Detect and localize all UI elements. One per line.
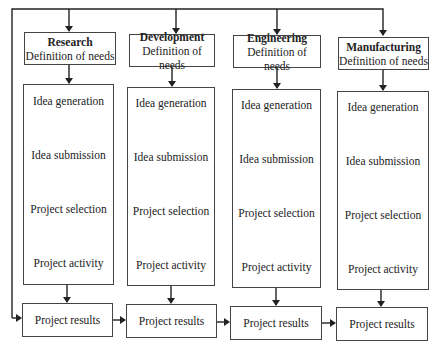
results-label: Project results <box>139 315 204 327</box>
header-subtitle: Definition of needs <box>234 45 320 73</box>
process-box-research: Idea generation Idea submission Project … <box>23 84 114 285</box>
process-box-development: Idea generation Idea submission Project … <box>127 87 215 286</box>
results-label: Project results <box>243 317 308 329</box>
results-label: Project results <box>349 318 414 330</box>
header-subtitle: Definition of needs <box>339 54 428 68</box>
step-idea-submission: Idea submission <box>338 155 428 167</box>
results-box-engineering: Project results <box>230 306 322 340</box>
step-idea-generation: Idea generation <box>233 99 320 111</box>
step-project-selection: Project selection <box>338 209 428 221</box>
step-idea-generation: Idea generation <box>128 97 214 109</box>
results-label: Project results <box>35 314 100 326</box>
header-title: Manufacturing <box>346 40 421 54</box>
step-project-activity: Project activity <box>128 259 214 271</box>
step-project-selection: Project selection <box>233 207 320 219</box>
header-title: Engineering <box>247 31 307 45</box>
results-box-research: Project results <box>22 303 113 337</box>
step-project-activity: Project activity <box>338 263 428 275</box>
step-project-selection: Project selection <box>24 203 113 215</box>
step-project-selection: Project selection <box>128 205 214 217</box>
header-title: Research <box>47 35 92 49</box>
header-subtitle: Definition of needs <box>26 49 115 63</box>
process-box-manufacturing: Idea generation Idea submission Project … <box>337 91 429 290</box>
step-idea-submission: Idea submission <box>24 149 113 161</box>
step-idea-generation: Idea generation <box>24 95 113 107</box>
process-box-engineering: Idea generation Idea submission Project … <box>232 89 321 288</box>
header-box-manufacturing: Manufacturing Definition of needs <box>338 37 429 70</box>
results-box-development: Project results <box>126 304 217 338</box>
header-title: Development <box>140 30 205 44</box>
step-idea-submission: Idea submission <box>128 151 214 163</box>
header-box-engineering: Engineering Definition of needs <box>233 35 321 68</box>
header-subtitle: Definition of needs <box>130 44 214 72</box>
header-box-research: Research Definition of needs <box>24 32 116 65</box>
step-project-activity: Project activity <box>233 261 320 273</box>
step-project-activity: Project activity <box>24 257 113 269</box>
header-box-development: Development Definition of needs <box>129 34 215 67</box>
step-idea-generation: Idea generation <box>338 101 428 113</box>
results-box-manufacturing: Project results <box>336 307 428 341</box>
step-idea-submission: Idea submission <box>233 153 320 165</box>
